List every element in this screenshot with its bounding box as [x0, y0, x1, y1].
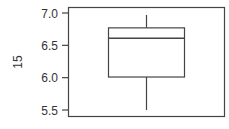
boxplot-chart: 5.56.06.57.0 15: [0, 0, 229, 129]
y-tick-label: 5.5: [41, 104, 58, 118]
y-tick-label: 6.0: [41, 71, 58, 85]
iqr-box: [109, 28, 185, 77]
y-axis-label: 15: [11, 55, 25, 69]
y-tick-label: 7.0: [41, 7, 58, 21]
y-tick-label: 6.5: [41, 39, 58, 53]
y-axis: 5.56.06.57.0: [41, 7, 68, 118]
box-series: [109, 15, 185, 110]
